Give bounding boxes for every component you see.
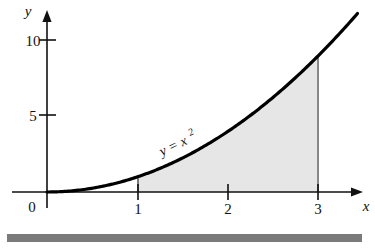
y-axis-arrow-icon [42,10,51,22]
origin-label: 0 [28,199,36,215]
x-axis-label: x [362,198,370,214]
y-tick-label-5: 5 [29,108,37,124]
shaded-region-under-curve [137,57,317,192]
y-tick-label-10: 10 [26,33,41,49]
x-axis-arrow-icon [351,187,363,196]
curve-equation-exponent: 2 [186,126,195,138]
y-axis-label: y [23,3,32,19]
x-tick-label-2: 2 [224,201,232,217]
x-tick-label-1: 1 [134,201,142,217]
math-graph-figure: y x 0 10 5 1 2 3 y = x 2 [0,0,375,248]
bottom-divider-bar [7,234,362,242]
x-tick-label-3: 3 [314,201,322,217]
